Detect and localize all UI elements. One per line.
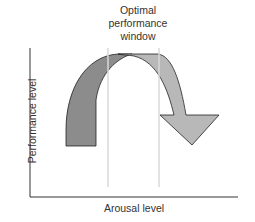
inverted-u-diagram xyxy=(0,0,255,222)
falling-arrow-band xyxy=(118,54,219,145)
x-axis-label: Arousal level xyxy=(30,202,238,214)
y-axis-label: Performance level xyxy=(26,61,38,181)
rising-arrow-band xyxy=(66,54,132,146)
